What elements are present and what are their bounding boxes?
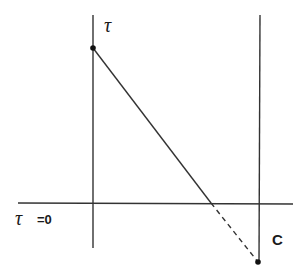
horizontal-axis-tau-zero — [18, 203, 293, 204]
diagonal-dashed-segment — [211, 203, 258, 262]
bottom-point-dot — [255, 259, 261, 265]
tau-label-top: τ — [104, 14, 111, 37]
equals-zero-label: =0 — [37, 212, 52, 227]
c-label: C — [272, 231, 283, 248]
tau-label-axis: τ — [15, 207, 22, 230]
top-point-dot — [90, 45, 96, 51]
right-vertical-line-c — [259, 15, 260, 262]
diagram-canvas — [0, 0, 308, 277]
diagonal-solid-segment — [93, 48, 211, 203]
